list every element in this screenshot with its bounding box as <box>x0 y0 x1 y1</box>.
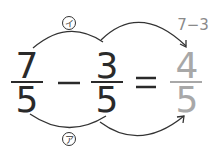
top-arc <box>33 31 103 48</box>
fraction-a-denominator: 5 <box>16 79 39 120</box>
fraction-subtraction-diagram: イ ア 7 5 3 5 4 5 7−3 <box>0 0 223 155</box>
top-arrow <box>101 22 186 46</box>
result-denominator: 5 <box>176 79 199 120</box>
fraction-b-denominator: 5 <box>96 79 119 120</box>
label-bottom: ア <box>65 135 74 145</box>
label-top: イ <box>65 19 74 29</box>
numerator-calculation: 7−3 <box>177 16 209 34</box>
